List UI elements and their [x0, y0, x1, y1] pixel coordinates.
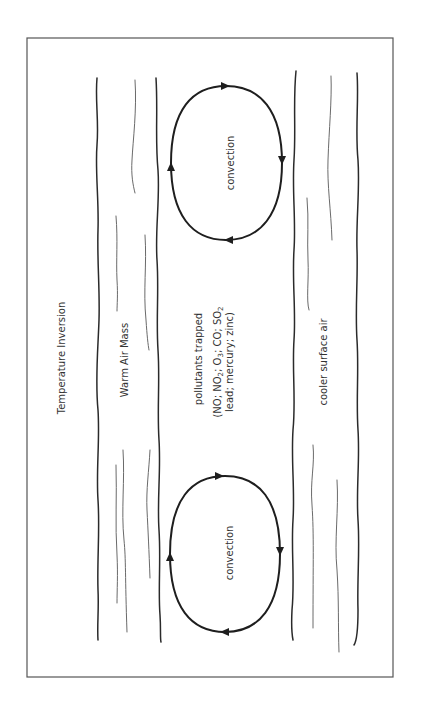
diagram-frame	[27, 38, 393, 677]
gas-part: (NO; NO	[212, 376, 223, 417]
arrow-up-icon	[167, 162, 175, 171]
convection-label-bottom: convection	[224, 526, 235, 581]
gas-part: ; CO; SO	[212, 311, 223, 353]
temperature-inversion-diagram: convection convection Temperature Invers…	[0, 0, 423, 713]
convection-label-top: convection	[225, 136, 236, 191]
pollutants-trapped-label: pollutants trapped	[193, 313, 204, 405]
cool-air-outer-boundary	[354, 73, 359, 645]
diagram-title: Temperature Inversion	[56, 302, 67, 415]
arrow-up-icon	[166, 552, 174, 561]
cooler-surface-air-label: cooler surface air	[318, 318, 329, 406]
convection-cell-top: convection	[167, 82, 286, 244]
convection-cell-bottom: convection	[166, 472, 284, 636]
warm-air-outer-boundary	[96, 78, 99, 640]
arrow-left-icon	[220, 628, 229, 636]
warm-air-mass-label: Warm Air Mass	[119, 323, 130, 397]
arrow-right-icon	[221, 82, 230, 90]
warm-air-inner-boundary	[156, 78, 161, 642]
gas-part: ; O	[212, 357, 223, 372]
cool-air-inner-boundary	[292, 71, 296, 640]
arrow-down-icon	[278, 156, 286, 165]
arrow-right-icon	[215, 472, 224, 480]
arrow-left-icon	[224, 236, 233, 244]
pollutants-list-metals: lead; mercury; zinc)	[224, 312, 235, 412]
subscript: 2	[217, 306, 225, 310]
arrow-down-icon	[276, 547, 284, 556]
